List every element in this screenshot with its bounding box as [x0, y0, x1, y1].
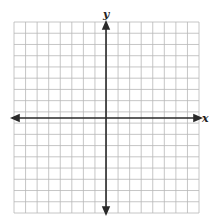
x-axis-label: x — [201, 112, 209, 125]
y-axis-label: y — [102, 8, 111, 21]
coordinate-plane: x y — [0, 0, 215, 223]
y-axis-top-arrow-icon — [103, 22, 109, 29]
x-axis-left-arrow-icon — [12, 115, 19, 121]
x-axis-right-arrow-icon — [194, 115, 201, 121]
